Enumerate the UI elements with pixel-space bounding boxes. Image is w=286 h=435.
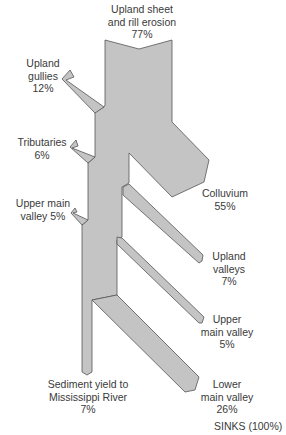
label-colluvium: Colluvium 55%	[198, 187, 252, 212]
label-upland-gullies: Upland gullies 12%	[18, 57, 68, 95]
upland-gullies-flow	[62, 70, 104, 113]
label-lower-main-valley: Lower main valley 26%	[196, 378, 258, 416]
label-sinks-total: SINKS (100%)	[214, 420, 286, 433]
label-tributaries: Tributaries 6%	[10, 136, 74, 161]
sediment-budget-diagram: Upland sheet and rill erosion 77% Upland…	[0, 0, 286, 435]
label-upper-main-valley-source: Upper main valley 5%	[10, 197, 76, 222]
label-upper-main-valley-sink: Upper main valley 5%	[196, 313, 258, 351]
label-sediment-yield: Sediment yield to Mississippi River 7%	[40, 378, 136, 416]
label-upland-sheet-erosion: Upland sheet and rill erosion 77%	[96, 3, 188, 41]
label-upland-valleys: Upland valleys 7%	[206, 250, 252, 288]
